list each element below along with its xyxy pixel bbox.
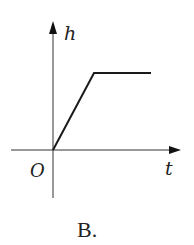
- data-line: [53, 73, 151, 150]
- y-axis-arrow-icon: [49, 21, 57, 34]
- option-label: B.: [77, 217, 97, 242]
- x-axis-arrow-icon: [169, 146, 181, 154]
- graph: h t O B.: [0, 0, 194, 245]
- x-axis-label: t: [165, 157, 173, 179]
- y-axis-label: h: [64, 22, 76, 44]
- origin-label: O: [30, 160, 45, 181]
